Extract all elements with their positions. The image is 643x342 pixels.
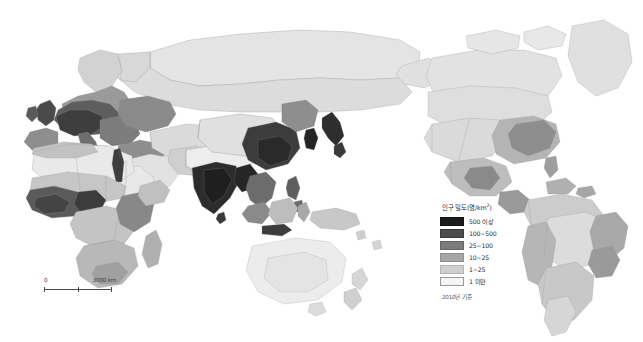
legend-label-100-500: 100~500: [469, 230, 496, 237]
legend-item-10-25: 10~25: [440, 252, 516, 264]
scale-bar-tick-end: [111, 287, 112, 292]
scale-bar-start-label: 0: [44, 277, 47, 283]
legend-source-note: 2010년 기준: [442, 293, 516, 301]
scale-bar-tick-mid: [78, 287, 79, 292]
legend-title-suffix: ): [489, 204, 491, 212]
legend-item-500-plus: 500 이상: [440, 216, 516, 228]
legend-swatch-1-25: [440, 265, 464, 274]
legend-title-text: 인구 밀도(명/km: [442, 204, 487, 212]
legend-label-10-25: 10~25: [469, 254, 489, 261]
legend-swatch-25-100: [440, 241, 464, 250]
legend-item-25-100: 25~100: [440, 240, 516, 252]
legend-item-1-25: 1~25: [440, 264, 516, 276]
map-scale-bar: 0 3000 km: [44, 277, 114, 292]
scale-bar-end-label: 3000 km: [93, 277, 116, 283]
legend-item-under-1: 1 미만: [440, 276, 516, 288]
legend-swatch-100-500: [440, 229, 464, 238]
scale-bar-graphic: [44, 286, 114, 292]
legend-swatch-10-25: [440, 253, 464, 262]
legend-swatch-500-plus: [440, 217, 464, 226]
legend-label-under-1: 1 미만: [469, 277, 486, 286]
legend-title: 인구 밀도(명/km2): [442, 203, 516, 212]
legend-label-25-100: 25~100: [469, 242, 493, 249]
scale-bar-tick-start: [44, 287, 45, 292]
population-density-map-figure: 인구 밀도(명/km2) 500 이상 100~500 25~100 10~25…: [0, 0, 643, 342]
legend-label-500-plus: 500 이상: [469, 217, 494, 226]
legend-label-1-25: 1~25: [469, 266, 485, 273]
map-legend: 인구 밀도(명/km2) 500 이상 100~500 25~100 10~25…: [440, 203, 516, 301]
legend-item-100-500: 100~500: [440, 228, 516, 240]
scale-bar-labels: 0 3000 km: [44, 277, 114, 285]
legend-swatch-under-1: [440, 277, 464, 286]
